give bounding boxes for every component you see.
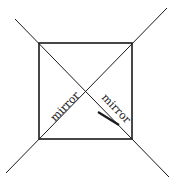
- left-mirror-label: mirror: [48, 88, 83, 124]
- diagonal-line-up: [6, 8, 167, 173]
- mirror-diagram: mirror mirror: [0, 0, 177, 186]
- right-mirror-label: mirror: [99, 91, 134, 127]
